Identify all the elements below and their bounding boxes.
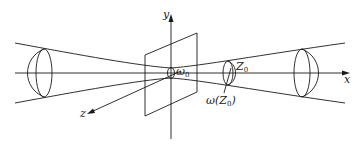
- z-axis-arrow: [87, 109, 95, 115]
- y-axis-label: y: [163, 9, 169, 20]
- beam-envelope-lower: [15, 78, 345, 103]
- z-axis-label: z: [80, 108, 86, 119]
- beam-radius-label: ω(Z0): [206, 95, 236, 108]
- x-axis-label: x: [344, 74, 350, 85]
- y-axis-arrow: [169, 14, 174, 22]
- omega-z0-leader: [224, 68, 231, 93]
- gaussian-beam-diagram: y x z ω0 Z0 ω(Z0): [0, 0, 362, 147]
- z0-label: Z0: [236, 61, 248, 74]
- waist-label: ω0: [176, 66, 189, 79]
